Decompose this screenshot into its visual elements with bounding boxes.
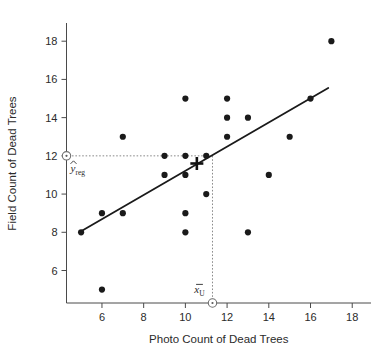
x-tick-label: 16 <box>304 311 316 323</box>
data-point <box>266 172 272 178</box>
data-point <box>120 134 126 140</box>
y-axis-title-group: Field Count of Dead Trees <box>6 96 18 230</box>
x-bar-u-label: xU <box>193 283 205 298</box>
y-tick-label: 8 <box>51 226 57 238</box>
y-tick-label: 18 <box>45 35 57 47</box>
x-axis-title-group: Photo Count of Dead Trees <box>149 333 289 345</box>
y-tick-label: 16 <box>45 73 57 85</box>
plot-axes <box>67 23 372 303</box>
data-point <box>161 172 167 178</box>
data-point <box>224 95 230 101</box>
y-hat-reg-marker-dot <box>65 155 67 157</box>
x-axis-ticks: 681012141618 <box>99 303 358 323</box>
data-point <box>328 38 334 44</box>
x-tick-label: 6 <box>99 311 105 323</box>
data-point <box>307 95 313 101</box>
guide-lines <box>69 156 213 302</box>
plot-canvas: 681012141618681012141618Photo Count of D… <box>0 0 387 357</box>
data-point <box>182 210 188 216</box>
data-point <box>203 153 209 159</box>
data-point <box>182 229 188 235</box>
data-point <box>120 210 126 216</box>
data-point <box>224 134 230 140</box>
x-tick-label: 12 <box>221 311 233 323</box>
x-tick-label: 14 <box>263 311 275 323</box>
y-hat-reg-subscript: reg <box>75 168 85 177</box>
y-tick-label: 14 <box>45 112 57 124</box>
regression-line-group <box>81 88 328 231</box>
x-tick-label: 18 <box>346 311 358 323</box>
data-point <box>78 229 84 235</box>
data-point <box>182 95 188 101</box>
regression-line <box>81 88 328 231</box>
data-point <box>182 153 188 159</box>
x-bar-u-subscript: U <box>199 289 205 298</box>
data-point <box>99 287 105 293</box>
scatter-plot-figure: 681012141618681012141618Photo Count of D… <box>0 0 387 357</box>
y-hat-reg-label: yreg <box>70 162 86 177</box>
centroid-marker <box>190 157 203 170</box>
data-point <box>245 229 251 235</box>
data-point <box>245 115 251 121</box>
data-point <box>99 210 105 216</box>
data-points <box>78 38 334 293</box>
y-axis-title: Field Count of Dead Trees <box>6 96 18 230</box>
y-tick-label: 12 <box>45 150 57 162</box>
data-point <box>224 115 230 121</box>
x-axis-title: Photo Count of Dead Trees <box>149 333 289 345</box>
x-bar-u-marker-dot <box>211 302 213 304</box>
y-tick-label: 6 <box>51 265 57 277</box>
y-tick-label: 10 <box>45 188 57 200</box>
data-point <box>161 153 167 159</box>
x-tick-label: 10 <box>179 311 191 323</box>
x-tick-label: 8 <box>141 311 147 323</box>
data-point <box>182 172 188 178</box>
data-point <box>287 134 293 140</box>
data-point <box>203 191 209 197</box>
